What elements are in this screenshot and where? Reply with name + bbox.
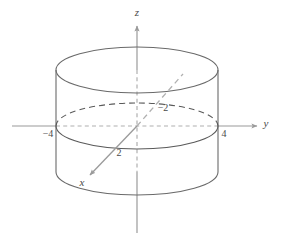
x-axis-label: x <box>79 176 85 188</box>
x-axis-back-segment <box>137 74 183 126</box>
tick-label-y-neg-4: −4 <box>43 128 54 139</box>
tick-label-x-pos-2: 2 <box>117 147 122 158</box>
y-axis-label: y <box>263 117 269 129</box>
cylinder-figure: z y x −4 4 −2 2 <box>0 0 281 242</box>
figure-canvas: z y x −4 4 −2 2 <box>0 0 281 242</box>
tick-label-x-neg-2: −2 <box>158 102 169 113</box>
z-axis-label: z <box>134 6 140 18</box>
tick-label-y-pos-4: 4 <box>222 128 227 139</box>
x-axis-front-segment <box>90 126 137 175</box>
